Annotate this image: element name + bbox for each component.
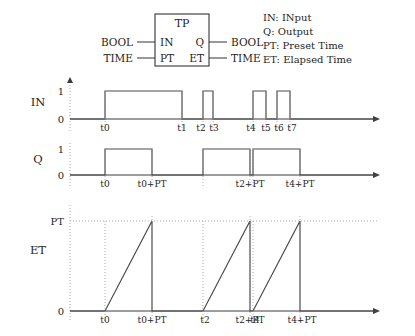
et-waveform: [70, 221, 378, 311]
in-level-low-label: 0: [58, 114, 64, 125]
q-waveform: [70, 149, 378, 175]
q-level-high-label: 1: [58, 144, 64, 155]
q-tick-t0: t0: [100, 179, 110, 189]
type-label-in-bool: BOOL: [101, 36, 133, 48]
type-label-et-time: TIME: [231, 52, 261, 64]
legend-line-pt: PT: Preset Time: [263, 40, 344, 51]
tp-block-name: TP: [175, 17, 190, 30]
et-trace: ET PT 0 t0 t0+PT t2 t2+PT t4 t4+PT: [30, 205, 380, 325]
q-tick-t2pt: t2+PT: [236, 179, 265, 189]
q-trace: Q 1 0 t0 t0+PT t2+PT t4+PT: [33, 143, 380, 189]
tp-timing-diagram: TP IN PT Q ET BOOL TIME BOOL TIME IN: IN…: [0, 0, 415, 336]
q-level-low-label: 0: [58, 170, 64, 181]
in-tick-t2: t2: [196, 123, 205, 133]
et-tick-t0: t0: [100, 315, 110, 325]
type-label-pt-time: TIME: [103, 52, 133, 64]
in-tick-t0: t0: [100, 123, 110, 133]
type-label-q-bool: BOOL: [231, 36, 263, 48]
tp-port-q: Q: [195, 36, 204, 48]
in-tick-t7: t7: [287, 123, 297, 133]
tp-port-et: ET: [189, 52, 204, 64]
q-signal-label: Q: [33, 152, 42, 166]
timing-diagram-page: TP IN PT Q ET BOOL TIME BOOL TIME IN: IN…: [0, 0, 415, 336]
legend: IN: INput Q: Output PT: Preset Time ET: …: [263, 12, 352, 65]
in-tick-t5: t5: [261, 123, 271, 133]
in-level-high-label: 1: [58, 86, 64, 97]
et-tick-t2: t2: [200, 315, 209, 325]
et-tick-t4: t4: [250, 315, 260, 325]
in-tick-t4: t4: [246, 123, 256, 133]
legend-line-in: IN: INput: [263, 12, 311, 23]
et-signal-label: ET: [30, 243, 46, 257]
q-tick-t0pt: t0+PT: [138, 179, 167, 189]
legend-line-q: Q: Output: [263, 26, 313, 37]
et-top-label: PT: [51, 216, 65, 227]
tp-function-block: TP IN PT Q ET BOOL TIME BOOL TIME: [101, 14, 263, 66]
in-axis-arrowhead: [67, 77, 73, 83]
in-tick-t1: t1: [177, 123, 186, 133]
in-tick-t6: t6: [274, 123, 284, 133]
tp-port-pt: PT: [160, 52, 174, 64]
q-tick-t4pt: t4+PT: [286, 179, 315, 189]
legend-line-et: ET: Elapsed Time: [263, 54, 352, 65]
in-tick-t3: t3: [209, 123, 219, 133]
et-bottom-label: 0: [58, 306, 64, 317]
et-tick-t4pt: t4+PT: [288, 315, 317, 325]
tp-port-in: IN: [160, 36, 173, 48]
in-signal-label: IN: [31, 95, 46, 109]
in-trace: IN 1 0 t0 t1 t2 t3: [31, 77, 380, 133]
et-tick-t0pt: t0+PT: [138, 315, 167, 325]
in-waveform: [70, 91, 378, 119]
